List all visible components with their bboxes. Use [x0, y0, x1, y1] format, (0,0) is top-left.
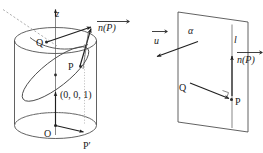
unit-point-label: (0, 0, 1): [60, 89, 92, 101]
point-p-prime-label: P′: [83, 140, 91, 151]
normal-vector-label: n(P): [98, 22, 116, 34]
figure-svg: z Q P P′ O (0, 0, 1) n(P): [0, 0, 263, 153]
z-axis-label: z: [55, 9, 60, 19]
cylinder-panel: z Q P P′ O (0, 0, 1) n(P): [3, 9, 129, 151]
figure-container: z Q P P′ O (0, 0, 1) n(P): [0, 0, 263, 153]
line-l-label: l: [234, 34, 237, 45]
vector-u-label: u: [154, 35, 159, 46]
axis-center-point: [54, 74, 57, 77]
right-point-p-marker: [230, 98, 233, 101]
point-p-marker: [79, 65, 82, 68]
point-q-marker: [45, 41, 48, 44]
point-q-label: Q: [36, 37, 44, 48]
right-point-p-label: P: [235, 96, 241, 107]
vector-o-to-pprime: [56, 126, 84, 133]
vector-q-to-ntip: [47, 27, 91, 42]
origin-label: O: [44, 128, 51, 139]
vector-u-arrow: [157, 42, 198, 57]
right-point-q-label: Q: [179, 82, 187, 93]
plane-panel: α l u Q P n(P): [152, 12, 262, 132]
vector-u-overbar: [152, 30, 167, 33]
point-p-label: P: [68, 61, 74, 72]
right-normal-vector-label: n(P): [237, 54, 255, 66]
plane-alpha-label: α: [188, 25, 194, 36]
